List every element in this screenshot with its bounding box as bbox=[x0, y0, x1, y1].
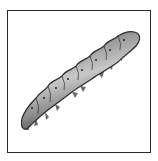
caterpillar-body bbox=[21, 32, 139, 130]
caterpillar-illustration bbox=[0, 0, 158, 161]
